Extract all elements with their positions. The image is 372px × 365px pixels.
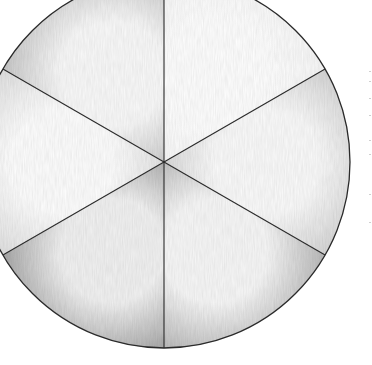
edge-mark — [369, 98, 371, 99]
edge-mark — [369, 140, 371, 141]
edge-mark — [369, 81, 371, 82]
edge-mark — [369, 222, 371, 223]
pie-slices — [0, 0, 350, 348]
edge-mark — [369, 71, 371, 72]
pie-chart — [0, 0, 372, 365]
edge-mark — [369, 115, 371, 116]
edge-mark — [369, 154, 371, 155]
edge-mark — [369, 194, 371, 195]
